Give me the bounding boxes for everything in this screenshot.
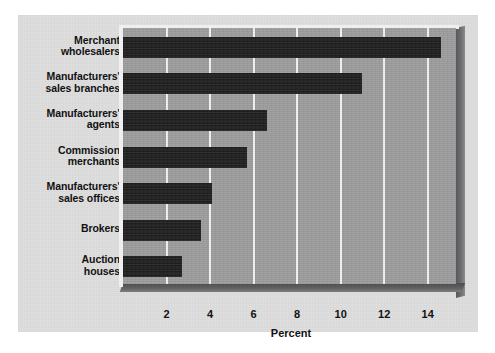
x-tick-label: 10 <box>335 308 347 320</box>
x-axis-ticks: 2468101214 <box>123 308 470 324</box>
category-label: Commission merchants <box>22 145 120 168</box>
bar <box>123 183 212 204</box>
x-tick-label: 2 <box>163 308 169 320</box>
bar <box>123 37 441 58</box>
bar <box>123 110 267 131</box>
category-label: Brokers <box>22 223 120 235</box>
category-label: Auction houses <box>22 254 120 277</box>
x-tick-label: 8 <box>294 308 300 320</box>
gridline <box>253 28 255 284</box>
x-tick-label: 14 <box>422 308 434 320</box>
gridline <box>427 28 429 284</box>
category-label: Merchant wholesalers <box>22 35 120 58</box>
bar <box>123 256 182 277</box>
bar <box>123 220 201 241</box>
chart-figure: Merchant wholesalers Manufacturers' sale… <box>0 0 495 353</box>
category-axis-labels: Merchant wholesalers Manufacturers' sale… <box>22 28 120 283</box>
category-label: Manufacturers' agents <box>22 108 120 131</box>
bar <box>123 147 247 168</box>
gridline <box>383 28 385 284</box>
plot-bevel-right <box>456 26 465 298</box>
gridline <box>296 28 298 284</box>
plot-bevel-bottom <box>120 283 465 292</box>
chart-card: Merchant wholesalers Manufacturers' sale… <box>18 15 478 332</box>
plot-area-wrapper <box>123 28 470 306</box>
gridline <box>340 28 342 284</box>
bar <box>123 73 362 94</box>
x-tick-label: 4 <box>207 308 213 320</box>
x-tick-label: 6 <box>251 308 257 320</box>
x-axis-title: Percent <box>123 327 459 339</box>
category-label: Manufacturers' sales offices <box>22 181 120 204</box>
category-label: Manufacturers' sales branches <box>22 71 120 94</box>
x-tick-label: 12 <box>378 308 390 320</box>
plot-area <box>123 28 456 284</box>
